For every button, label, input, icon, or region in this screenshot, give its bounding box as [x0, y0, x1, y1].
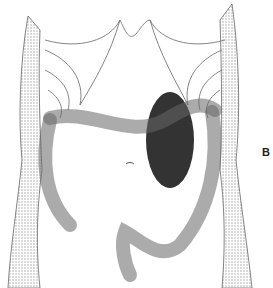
- ascending-colon: [45, 120, 70, 225]
- panel-label: B: [262, 146, 270, 158]
- navel: [126, 163, 134, 165]
- anatomical-illustration: [0, 0, 273, 288]
